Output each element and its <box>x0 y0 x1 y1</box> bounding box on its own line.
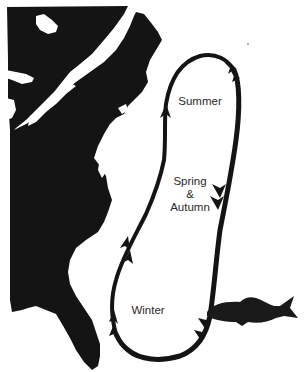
migration-diagram: Summer Spring & Autumn Winter <box>0 0 307 372</box>
arrow-up-icon <box>120 236 130 250</box>
label-winter: Winter <box>128 304 168 317</box>
fish-icon <box>207 296 298 326</box>
label-ampersand: & <box>160 188 220 201</box>
label-spring-autumn: Spring & Autumn <box>160 175 220 214</box>
label-autumn: Autumn <box>160 201 220 214</box>
arrow-up-icon <box>109 324 119 338</box>
label-summer: Summer <box>176 95 224 108</box>
speck-decoration <box>247 43 249 45</box>
label-spring: Spring <box>160 175 220 188</box>
